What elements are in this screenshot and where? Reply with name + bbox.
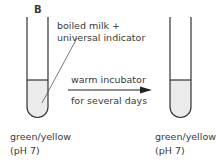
tube-annotation-line2: universal indicator	[57, 32, 145, 44]
left-tube-ph: (pH 7)	[10, 145, 40, 157]
right-tube-ph: (pH 7)	[155, 145, 185, 157]
arrow-label-top: warm incubator	[71, 74, 146, 86]
test-tube-right	[170, 17, 191, 118]
incubation-arrow	[68, 87, 152, 94]
tube-annotation-line1: boiled milk +	[57, 20, 120, 32]
left-tube-color: green/yellow	[10, 131, 71, 143]
diagram-label: B	[34, 4, 42, 16]
right-tube-color: green/yellow	[155, 131, 216, 143]
arrow-label-bottom: for several days	[71, 95, 147, 107]
annotation-leader-line	[42, 38, 77, 103]
test-tube-left	[27, 17, 48, 118]
